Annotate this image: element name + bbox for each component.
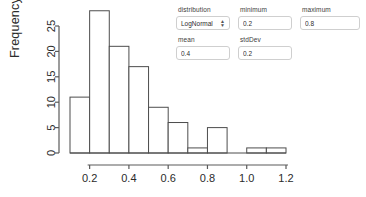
y-axis-tick-label: 25 — [45, 20, 57, 32]
y-axis-tick-label: 20 — [45, 45, 57, 57]
x-axis-tick-label: 0.2 — [82, 172, 97, 184]
distribution-label: distribution — [178, 6, 230, 14]
x-axis-tick-label: 1.2 — [278, 172, 293, 184]
histogram-bar — [70, 97, 90, 153]
y-axis: 0510152025 — [45, 20, 59, 156]
controls-row-2: mean stdDev — [176, 36, 362, 60]
x-axis-tick-label: 0.6 — [161, 172, 176, 184]
stddev-label: stdDev — [240, 36, 292, 44]
stddev-control: stdDev — [238, 36, 292, 60]
distribution-control: distribution LogNormal ▲▼ — [176, 6, 230, 30]
y-axis-tick-label: 15 — [45, 71, 57, 83]
minimum-input[interactable] — [238, 16, 292, 30]
histogram-bar — [149, 107, 169, 153]
y-axis-tick-label: 5 — [45, 125, 57, 131]
chevron-updown-icon: ▲▼ — [220, 19, 225, 27]
maximum-label: maximum — [302, 6, 360, 14]
histogram-app: Frequency 0510152025 0.20.40.60.81.01.2 … — [0, 0, 366, 197]
minimum-label: minimum — [240, 6, 292, 14]
distribution-select[interactable]: LogNormal ▲▼ — [176, 16, 230, 30]
histogram-bar — [207, 128, 227, 153]
histogram-bar — [168, 123, 188, 153]
x-axis-tick-label: 1.0 — [239, 172, 254, 184]
minimum-control: minimum — [238, 6, 292, 30]
x-axis-tick-label: 0.4 — [121, 172, 136, 184]
mean-control: mean — [176, 36, 230, 60]
maximum-input[interactable] — [300, 16, 360, 30]
controls-row-1: distribution LogNormal ▲▼ minimum maximu… — [176, 6, 362, 30]
histogram-bar — [129, 67, 149, 153]
histogram-bar — [266, 148, 286, 153]
distribution-value: LogNormal — [181, 20, 213, 27]
histogram-bar — [109, 46, 129, 153]
x-axis: 0.20.40.60.81.01.2 — [82, 165, 294, 184]
x-axis-tick-label: 0.8 — [200, 172, 215, 184]
y-axis-tick-label: 10 — [45, 96, 57, 108]
y-axis-tick-label: 0 — [45, 150, 57, 156]
mean-input[interactable] — [176, 46, 230, 60]
histogram-bar — [188, 148, 208, 153]
maximum-control: maximum — [300, 6, 360, 30]
histogram-bar — [90, 11, 110, 153]
stddev-input[interactable] — [238, 46, 292, 60]
mean-label: mean — [178, 36, 230, 44]
histogram-bar — [247, 148, 267, 153]
parameter-controls: distribution LogNormal ▲▼ minimum maximu… — [176, 6, 362, 66]
